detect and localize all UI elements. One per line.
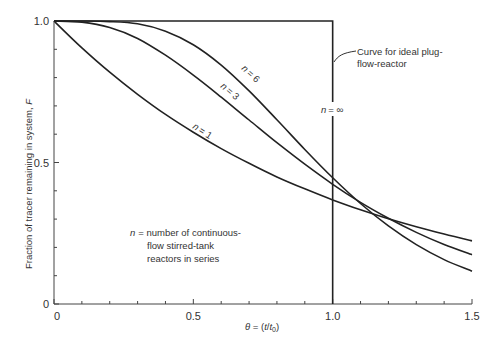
- x-tick-label: 1.0: [325, 310, 340, 322]
- curve-series-2: [54, 21, 472, 271]
- curve-label-n6: n= 6: [240, 62, 263, 84]
- curve-label-ninf: n= ∞: [321, 104, 343, 115]
- x-tick-label: 1.5: [464, 310, 479, 322]
- x-axis-label: θ = (t/t0): [245, 321, 279, 333]
- y-tick-label: 0: [43, 298, 49, 310]
- y-tick-label: 0.5: [34, 157, 49, 169]
- plug-flow-annotation-line1: Curve for ideal plug-: [357, 46, 443, 57]
- x-tick-label: 0: [54, 310, 60, 322]
- n-definition-line3: reactors in series: [147, 253, 220, 264]
- labels: n= 1 n= 3 n= 6 n= ∞ Curve for ideal plug…: [23, 46, 443, 333]
- axes: 00.51.01.500.51.0: [34, 15, 480, 322]
- chart-canvas: 00.51.01.500.51.0 n= 1 n= 3 n= 6 n= ∞ Cu…: [0, 0, 499, 340]
- y-tick-label: 1.0: [34, 15, 49, 27]
- plug-flow-annotation-line2: flow-reactor: [357, 58, 407, 69]
- annotation-leader-line: [334, 51, 356, 62]
- y-axis-label: Fraction of tracer remaining in system, …: [23, 98, 34, 269]
- n-definition-line2: flow stirred-tank: [147, 240, 214, 251]
- curves: [54, 21, 472, 304]
- x-tick-label: 0.5: [186, 310, 201, 322]
- n-definition-line1: n= number of continuous-: [130, 227, 241, 238]
